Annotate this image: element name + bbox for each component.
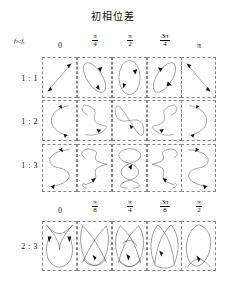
lissajous-cell-1-3-phase-3pi4	[147, 144, 182, 192]
lissajous-cell-1-3-phase-pi	[181, 144, 216, 192]
lissajous-cell-2-3-phase-3pi8	[147, 221, 182, 271]
lissajous-cell-1-3-phase-pi2	[112, 144, 147, 192]
row-label-1-1: 1 : 1	[4, 74, 38, 83]
lissajous-cell-2-3-phase-pi4	[112, 221, 147, 271]
lissajous-cell-1-1-phase-3pi4	[147, 57, 182, 98]
phase-header-top-1: π4	[77, 33, 113, 48]
lissajous-cell-2-3-phase-pi8	[77, 221, 112, 271]
lissajous-cell-1-2-phase-0	[42, 100, 77, 141]
lissajous-cell-1-2-phase-3pi4	[147, 100, 182, 141]
frequency-ratio-axis-label: fₕ:fᵧ	[14, 37, 25, 45]
phase-header-bottom-0: 0	[42, 203, 78, 215]
lissajous-cell-1-3-phase-pi4	[77, 144, 112, 192]
lissajous-cell-1-1-phase-pi	[181, 57, 216, 98]
phase-header-top-0: 0	[42, 38, 78, 50]
row-label-1-3: 1 : 3	[4, 161, 38, 170]
lissajous-cell-1-1-phase-0	[42, 57, 77, 98]
lissajous-cell-1-1-phase-pi2	[112, 57, 147, 98]
phase-header-top-2: π2	[112, 33, 148, 48]
lissajous-cell-2-3-phase-pi2	[181, 221, 216, 271]
phase-header-bottom-3: 3π8	[147, 199, 183, 214]
lissajous-figure-table: 初相位差 fₕ:fᵧ 0 π4 π2 3π4 π 1 : 1 1 : 2 1 :…	[0, 0, 225, 282]
phase-header-bottom-1: π8	[77, 199, 113, 214]
lissajous-cell-1-1-phase-pi4	[77, 57, 112, 98]
phase-header-bottom-2: π4	[112, 199, 148, 214]
phase-header-bottom-4: π2	[181, 199, 217, 214]
row-label-2-3: 2 : 3	[4, 242, 38, 251]
lissajous-cell-1-2-phase-pi2	[112, 100, 147, 141]
lissajous-cell-1-3-phase-0	[42, 144, 77, 192]
lissajous-cell-2-3-phase-0	[42, 221, 77, 271]
lissajous-cell-1-2-phase-pi	[181, 100, 216, 141]
row-label-1-2: 1 : 2	[4, 117, 38, 126]
phase-header-top-4: π	[181, 38, 217, 50]
lissajous-cell-1-2-phase-pi4	[77, 100, 112, 141]
phase-header-top-3: 3π4	[147, 33, 183, 48]
page-title: 初相位差	[0, 8, 225, 23]
